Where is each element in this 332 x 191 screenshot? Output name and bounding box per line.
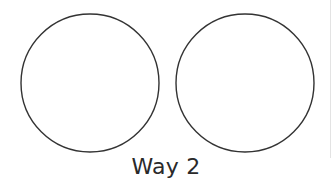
right-circle	[176, 14, 314, 152]
caption-label: Way 2	[0, 154, 332, 179]
left-circle	[21, 14, 159, 152]
edge-divider	[330, 0, 331, 158]
